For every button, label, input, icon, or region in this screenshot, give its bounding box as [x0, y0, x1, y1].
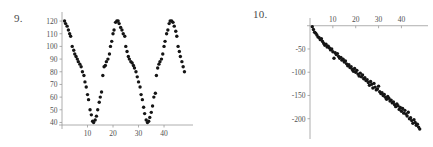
data-point [101, 74, 104, 77]
data-point [156, 66, 159, 69]
data-point [71, 45, 74, 48]
data-point [355, 69, 358, 72]
data-point-group [311, 25, 422, 131]
data-point [180, 60, 183, 63]
data-point [134, 70, 137, 73]
scatter-plot-10: 10203040-50-100-150-200 [217, 0, 433, 147]
data-point [163, 40, 166, 43]
data-point [88, 108, 91, 111]
data-point [133, 66, 136, 69]
data-point [100, 90, 103, 93]
data-point [152, 95, 155, 98]
x-tick-label: 40 [398, 15, 406, 24]
data-point [407, 111, 410, 114]
data-point [405, 114, 408, 117]
y-tick-label: 110 [47, 30, 58, 39]
data-point [154, 92, 157, 95]
data-point [82, 74, 85, 77]
y-tick-label: 100 [46, 42, 58, 51]
data-point [117, 22, 120, 25]
data-point [67, 28, 70, 31]
x-tick-label: 30 [375, 15, 383, 24]
data-point [93, 118, 96, 121]
data-point [143, 112, 146, 115]
data-point [161, 52, 164, 55]
data-point [79, 65, 82, 68]
y-tick-label: -150 [292, 91, 306, 100]
data-point [83, 80, 86, 83]
y-tick-label: -200 [292, 115, 306, 124]
data-point [162, 45, 165, 48]
x-tick-label: 20 [352, 15, 360, 24]
data-point [377, 84, 380, 87]
data-point [418, 127, 421, 130]
data-point [150, 111, 153, 114]
data-point [139, 93, 142, 96]
x-tick-label: 20 [109, 129, 117, 138]
figure-10: 10. 10203040-50-100-150-200 [217, 0, 433, 147]
x-tick-label: 10 [84, 129, 92, 138]
data-point [124, 45, 127, 48]
data-point [171, 21, 174, 24]
y-tick-label: -50 [296, 45, 306, 54]
data-point [86, 93, 89, 96]
data-point [361, 73, 364, 76]
data-point [99, 95, 102, 98]
data-point [174, 30, 177, 33]
data-point [87, 98, 90, 101]
data-point [160, 57, 163, 60]
data-point [403, 109, 406, 112]
data-point [137, 80, 140, 83]
data-point [98, 100, 101, 103]
data-point [142, 106, 145, 109]
data-point [112, 28, 115, 31]
data-point [147, 120, 150, 123]
data-point [148, 116, 151, 119]
data-point [179, 55, 182, 58]
data-point [120, 28, 123, 31]
data-point [72, 49, 75, 52]
data-point [85, 85, 88, 88]
data-point [176, 45, 179, 48]
data-point [173, 24, 176, 27]
data-point [165, 32, 168, 35]
data-point [106, 57, 109, 60]
data-point [166, 28, 169, 31]
y-tick-label: 70 [50, 80, 58, 89]
data-point [183, 70, 186, 73]
data-point [141, 98, 144, 101]
data-point [111, 32, 114, 35]
data-point [90, 113, 93, 116]
data-point [65, 24, 68, 27]
data-point [372, 82, 375, 85]
figure-9: 9. 10203040405060708090100110120 [0, 0, 217, 147]
data-point [151, 104, 154, 107]
data-point [123, 35, 126, 38]
y-tick-label: 120 [46, 17, 58, 26]
x-tick-label: 10 [329, 15, 337, 24]
data-point [108, 52, 111, 55]
data-point [332, 57, 335, 60]
y-tick-label: 40 [50, 118, 58, 127]
data-point [181, 65, 184, 68]
data-point [104, 64, 107, 67]
data-point [138, 85, 141, 88]
data-point [125, 50, 128, 53]
x-tick-label: 30 [135, 129, 143, 138]
y-tick-label: 90 [50, 55, 58, 64]
data-point [178, 50, 181, 53]
data-point-group [63, 19, 186, 124]
scatter-plot-9: 10203040405060708090100110120 [0, 0, 217, 147]
y-tick-label: 50 [50, 106, 58, 115]
data-point [155, 74, 158, 77]
y-tick-label: 60 [50, 93, 58, 102]
data-point [175, 35, 178, 38]
data-point [69, 35, 72, 38]
data-point [109, 45, 112, 48]
x-tick-label: 40 [160, 129, 168, 138]
y-tick-label: -100 [292, 68, 306, 77]
data-point [81, 70, 84, 73]
data-point [110, 40, 113, 43]
data-point [96, 108, 99, 111]
data-point [95, 114, 98, 117]
